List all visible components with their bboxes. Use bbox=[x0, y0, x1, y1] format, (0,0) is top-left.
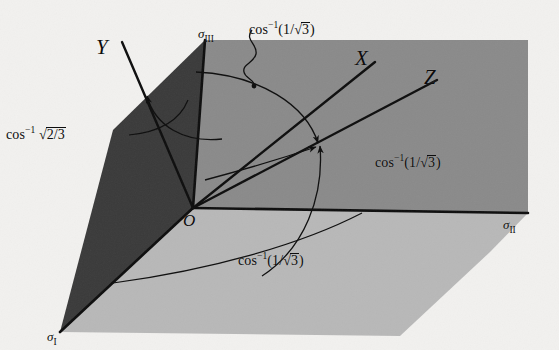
radicand-2: 3 bbox=[427, 155, 436, 170]
annotation-angle-bottom-arc: cos−1(1/√3) bbox=[238, 253, 304, 268]
cos-exp-3: −1 bbox=[257, 251, 267, 261]
axis-label-sigma-I: σI bbox=[47, 330, 57, 347]
arg-open-2: (1/ bbox=[404, 155, 420, 170]
axis-label-sigma-II: σII bbox=[503, 218, 516, 235]
sigma-subscript-III: III bbox=[204, 34, 214, 44]
cos-fn-0: cos bbox=[6, 127, 25, 142]
axis-label-X: X bbox=[355, 48, 368, 69]
arg-close-1: ) bbox=[310, 22, 315, 37]
shaded-faces bbox=[60, 40, 528, 336]
annotation-angle-y-axis: cos−1 √2/3 bbox=[6, 127, 66, 142]
cos-fn-1: cos bbox=[249, 22, 268, 37]
axis-label-Z: Z bbox=[424, 67, 436, 88]
arg-close-3: ) bbox=[299, 253, 304, 268]
annotation-angle-right-arc: cos−1(1/√3) bbox=[375, 155, 441, 170]
arg-open-1: (1/ bbox=[278, 22, 294, 37]
annotation-angle-top-arc: cos−1(1/√3) bbox=[249, 22, 315, 37]
arg-close-2: ) bbox=[436, 155, 441, 170]
cos-exp-2: −1 bbox=[394, 153, 404, 163]
arg-open-3: (1/ bbox=[267, 253, 283, 268]
leader-dot bbox=[252, 84, 257, 89]
origin-label: O bbox=[183, 212, 195, 229]
cos-fn-3: cos bbox=[238, 253, 257, 268]
axis-label-sigma-III: σIII bbox=[198, 27, 214, 44]
radicand-1: 3 bbox=[301, 22, 310, 37]
axis-label-Y: Y bbox=[96, 37, 108, 58]
cos-exp-1: −1 bbox=[268, 20, 278, 30]
cos-exp-0: −1 bbox=[25, 125, 35, 135]
radicand-0: 2/3 bbox=[46, 127, 66, 142]
sigma-subscript-I: I bbox=[53, 337, 56, 347]
stress-space-figure: Y X Z O σIII σII σI cos−1 √2/3 cos−1(1/√… bbox=[0, 0, 559, 350]
radicand-3: 3 bbox=[290, 253, 299, 268]
sigma-subscript-II: II bbox=[509, 225, 515, 235]
figure-canvas bbox=[0, 0, 559, 350]
cos-fn-2: cos bbox=[375, 155, 394, 170]
